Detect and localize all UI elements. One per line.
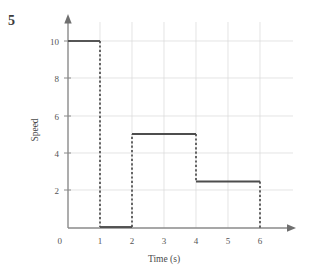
x-tick-label-5: 5 bbox=[226, 236, 231, 246]
y-tick-label-4: 4 bbox=[55, 149, 60, 159]
x-tick-labels: 1 2 3 4 5 6 bbox=[98, 236, 263, 246]
x-tick-label-2: 2 bbox=[130, 236, 135, 246]
speed-time-step-chart: 10 8 6 4 2 0 1 2 3 4 5 6 Time (s) Speed bbox=[0, 0, 323, 271]
y-tick-label-10: 10 bbox=[50, 37, 60, 47]
x-tick-label-1: 1 bbox=[98, 236, 103, 246]
x-tick-label-3: 3 bbox=[162, 236, 167, 246]
x-tick-label-4: 4 bbox=[194, 236, 199, 246]
y-tick-label-2: 2 bbox=[55, 186, 60, 196]
y-tick-labels: 10 8 6 4 2 0 bbox=[50, 37, 63, 247]
y-tick-label-6: 6 bbox=[55, 112, 60, 122]
horizontal-gridlines bbox=[68, 41, 293, 190]
y-tick-label-0: 0 bbox=[58, 236, 63, 246]
vertical-gridlines bbox=[100, 22, 260, 228]
y-axis-arrow-icon bbox=[64, 14, 71, 24]
y-axis-title: Speed bbox=[30, 118, 40, 141]
x-axis-arrow-icon bbox=[287, 224, 296, 231]
y-axis bbox=[64, 14, 71, 228]
x-tick-label-6: 6 bbox=[258, 236, 263, 246]
x-axis bbox=[68, 224, 296, 231]
x-axis-title: Time (s) bbox=[148, 254, 180, 265]
y-tick-label-8: 8 bbox=[55, 74, 60, 84]
